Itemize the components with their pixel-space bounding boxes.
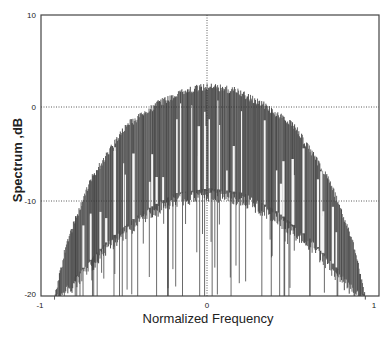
y-tick-10: 10: [27, 11, 36, 20]
y-tick-0: 0: [32, 103, 37, 112]
y-axis-label: Spectrum ,dB: [10, 118, 25, 203]
x-tick-minus1: -1: [36, 301, 44, 310]
spectrum-chart: 10 0 -10 -20 -1 0 1 Normalized Frequency…: [0, 0, 389, 337]
x-axis-label: Normalized Frequency: [143, 311, 274, 326]
x-tick-0: 0: [205, 301, 210, 310]
y-tick-minus10: -10: [24, 197, 36, 206]
y-tick-minus20: -20: [24, 290, 36, 299]
x-tick-1: 1: [372, 301, 377, 310]
